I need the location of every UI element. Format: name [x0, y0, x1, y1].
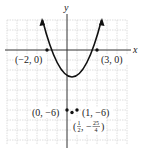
label-vertex: ( 1 2 , − 25 4 ): [72, 118, 106, 135]
svg-text:): ): [101, 121, 104, 133]
point-neg2-0: [45, 48, 48, 51]
y-axis-label: y: [63, 2, 69, 13]
point-3-0: [95, 48, 98, 51]
label-1-neg6: (1, −6): [82, 107, 109, 119]
svg-text:4: 4: [95, 127, 98, 133]
svg-text:, −: , −: [81, 121, 92, 132]
point-0-neg6: [65, 108, 68, 111]
arrow-up-left-icon: [40, 18, 46, 26]
svg-text:25: 25: [93, 120, 99, 126]
label-0-neg6: (0, −6): [32, 107, 59, 119]
x-axis-label: x: [132, 44, 138, 55]
label-neg2-0: (−2, 0): [15, 54, 42, 66]
label-3-0: (3, 0): [101, 54, 123, 66]
parabola-curve: [43, 20, 102, 77]
arrow-up-right-icon: [99, 18, 105, 26]
parabola-graph: x y (−2, 0) (3, 0) (0, −6) (1, −6) ( 1 2…: [0, 0, 145, 154]
point-vertex: [70, 111, 73, 114]
point-1-neg6: [75, 108, 78, 111]
